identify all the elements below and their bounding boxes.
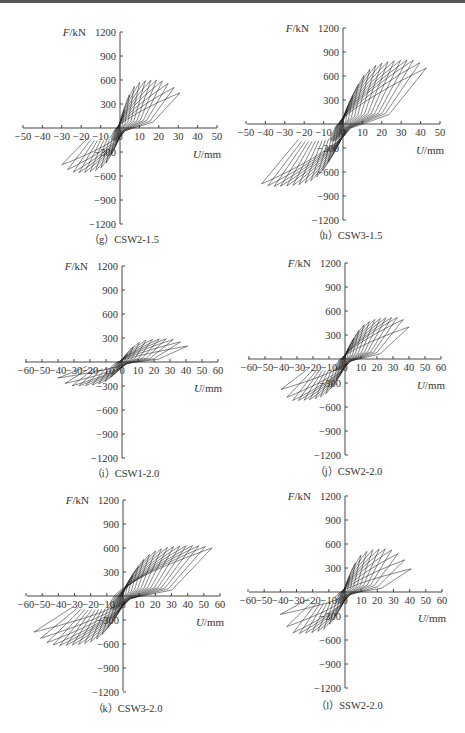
- x-tick-label: 40: [192, 131, 203, 142]
- chart-panel-k: −60−50−40−30−20−100102030405060120090060…: [18, 494, 225, 714]
- x-tick-label: 30: [173, 131, 184, 142]
- y-tick-label: 1200: [95, 27, 116, 38]
- hysteresis-figure: −50−40−30−20−10010203040501200900600300−…: [0, 0, 465, 733]
- x-tick-label: 60: [437, 595, 448, 606]
- y-tick-label: 600: [323, 71, 339, 82]
- x-tick-label: −40: [50, 599, 66, 610]
- y-tick-label: −600: [94, 171, 116, 182]
- hysteresis-loop: [68, 87, 175, 169]
- x-tick-label: 20: [372, 595, 383, 606]
- y-tick-label: −900: [96, 429, 118, 440]
- y-tick-label: 300: [102, 333, 118, 344]
- y-tick-label: 600: [103, 543, 119, 554]
- y-tick-label: 300: [325, 330, 341, 341]
- y-axis-title: F/kN: [62, 26, 86, 38]
- x-axis-title: U/mm: [417, 379, 446, 391]
- x-tick-label: −50: [238, 127, 254, 138]
- x-tick-label: −50: [257, 362, 273, 373]
- y-tick-label: −1200: [92, 687, 119, 698]
- x-axis-title: U/mm: [418, 612, 447, 624]
- x-tick-label: −10: [321, 362, 337, 373]
- x-tick-label: −60: [18, 599, 34, 610]
- figure-caption: （h）CSW3-1.5: [313, 230, 383, 241]
- y-tick-label: −900: [319, 426, 341, 437]
- figure-caption: （l）SSW2-2.0: [316, 700, 382, 711]
- x-axis-title: U/mm: [194, 382, 223, 394]
- x-tick-label: −60: [241, 362, 257, 373]
- x-tick-label: 20: [150, 599, 161, 610]
- y-tick-label: 300: [100, 99, 116, 110]
- hysteresis-curves: [262, 60, 427, 186]
- y-tick-label: −1200: [314, 450, 341, 461]
- y-tick-label: −600: [319, 402, 341, 413]
- hysteresis-loop: [287, 560, 405, 627]
- x-tick-label: −60: [18, 365, 34, 376]
- x-tick-label: 40: [181, 365, 192, 376]
- x-tick-label: −60: [240, 595, 256, 606]
- y-tick-label: −600: [96, 405, 118, 416]
- y-tick-label: 1200: [318, 23, 339, 34]
- hysteresis-loop: [293, 61, 394, 186]
- y-tick-label: −900: [317, 191, 339, 202]
- x-tick-label: −30: [289, 362, 305, 373]
- y-tick-label: −900: [94, 195, 116, 206]
- x-tick-label: −20: [82, 599, 98, 610]
- x-tick-label: 50: [435, 127, 446, 138]
- y-tick-label: −600: [317, 167, 339, 178]
- x-tick-label: −20: [304, 595, 320, 606]
- y-tick-label: 1200: [320, 491, 341, 502]
- y-tick-label: 900: [323, 47, 339, 58]
- x-tick-label: 20: [377, 127, 388, 138]
- x-tick-label: −50: [34, 365, 50, 376]
- y-tick-label: 1200: [97, 261, 118, 272]
- x-tick-label: 10: [134, 599, 145, 610]
- chart-panel-l: −60−50−40−30−20−100102030405060120090060…: [240, 490, 447, 711]
- x-tick-label: 50: [421, 595, 432, 606]
- x-tick-label: 10: [134, 131, 145, 142]
- hysteresis-loop: [281, 60, 408, 186]
- x-tick-label: −40: [34, 131, 50, 142]
- figure-caption: （j）CSW2-2.0: [315, 466, 383, 477]
- x-tick-label: −50: [15, 131, 31, 142]
- y-tick-label: −1200: [314, 683, 341, 694]
- x-tick-label: 30: [165, 365, 176, 376]
- x-tick-label: −10: [315, 127, 331, 138]
- y-tick-label: −900: [319, 659, 341, 670]
- x-tick-label: −30: [277, 127, 293, 138]
- x-tick-label: 10: [133, 365, 144, 376]
- x-tick-label: 20: [149, 365, 160, 376]
- y-tick-label: −1200: [91, 453, 118, 464]
- y-tick-label: 600: [325, 306, 341, 317]
- figure-caption: （g）CSW2-1.5: [89, 234, 159, 245]
- x-tick-label: −50: [34, 599, 50, 610]
- y-tick-label: 600: [325, 539, 341, 550]
- y-tick-label: 1200: [320, 258, 341, 269]
- x-tick-label: 40: [182, 599, 193, 610]
- x-tick-label: −40: [272, 595, 288, 606]
- y-tick-label: 900: [102, 285, 118, 296]
- chart-panel-j: −60−50−40−30−20−100102030405060120090060…: [241, 257, 446, 477]
- chart-panel-g: −50−40−30−20−10010203040501200900600300−…: [15, 26, 222, 245]
- x-tick-label: 20: [372, 362, 383, 373]
- hysteresis-curves: [62, 80, 180, 173]
- x-tick-label: 30: [388, 362, 399, 373]
- chart-panel-h: −50−40−30−20−10010203040501200900600300−…: [238, 22, 445, 241]
- hysteresis-loop: [85, 80, 157, 172]
- x-tick-label: 60: [213, 365, 224, 376]
- y-tick-label: 300: [103, 567, 119, 578]
- x-tick-label: 40: [404, 595, 415, 606]
- x-tick-label: −30: [288, 595, 304, 606]
- y-axis-title: F/kN: [285, 22, 309, 34]
- x-tick-label: 10: [356, 362, 367, 373]
- x-tick-label: −40: [273, 362, 289, 373]
- x-tick-label: −50: [256, 595, 272, 606]
- x-tick-label: −20: [296, 127, 312, 138]
- y-tick-label: 900: [103, 519, 119, 530]
- y-tick-label: 900: [325, 282, 341, 293]
- x-tick-label: −40: [257, 127, 273, 138]
- x-tick-label: 60: [215, 599, 226, 610]
- y-tick-label: 900: [100, 51, 116, 62]
- x-tick-label: 60: [436, 362, 447, 373]
- y-axis-title: F/kN: [64, 260, 88, 272]
- x-tick-label: 10: [357, 127, 368, 138]
